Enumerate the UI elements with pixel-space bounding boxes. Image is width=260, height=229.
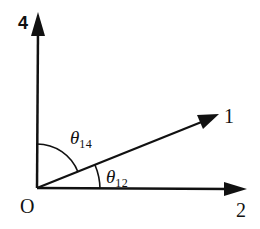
vector-1-label: 1 (224, 106, 234, 126)
vector-1-arrowhead-icon (197, 114, 219, 129)
theta14-label: θ14 (70, 128, 92, 150)
theta12-symbol: θ (106, 166, 115, 187)
theta12-arc (95, 165, 100, 189)
vector-angle-diagram: 4 1 2 O θ14 θ12 (0, 0, 260, 229)
vector-2-arrowhead-icon (224, 182, 247, 196)
vector-4-arrowhead-icon (31, 12, 45, 36)
vector-2-line (37, 188, 230, 189)
theta14-subscript: 14 (79, 137, 92, 151)
vector-2-label: 2 (236, 200, 246, 220)
origin-label: O (20, 196, 34, 216)
vector-4-line (37, 30, 38, 188)
theta14-symbol: θ (70, 127, 79, 148)
vector-4-label: 4 (18, 14, 28, 32)
diagram-canvas (0, 0, 260, 229)
theta12-subscript: 12 (115, 176, 128, 190)
theta12-label: θ12 (106, 167, 128, 189)
